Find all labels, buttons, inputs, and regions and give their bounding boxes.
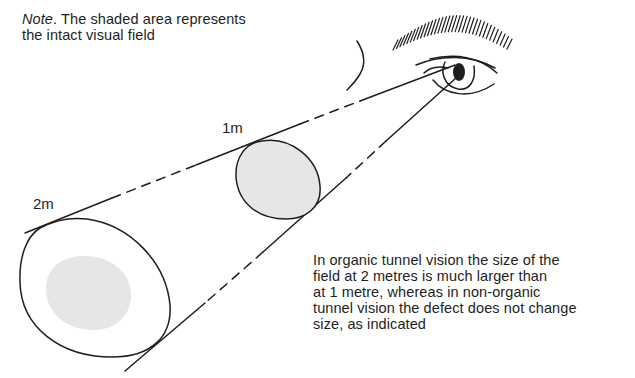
near-field-oval [236,140,320,219]
eyebrow-stroke [497,32,502,44]
eyebrow-stroke [400,36,405,47]
upper-sight-line [25,65,455,233]
note-text: Note. The shaded area representsthe inta… [22,11,246,43]
eyebrow-stroke [500,34,505,45]
distance-label-1m: 1m [222,120,243,136]
distance-label-2m: 2m [33,196,54,212]
nose-contour-icon [347,41,364,90]
eyebrow-stroke [403,33,408,45]
eyebrow-stroke [397,38,402,49]
far-field-shaded-area [46,256,131,330]
eyebrow-stroke [507,39,512,49]
eyebrow-stroke [393,40,398,50]
caption-text: In organic tunnel vision the size of the… [313,252,577,332]
eyebrow-stroke [493,29,498,41]
note-body: . The shaded area representsthe intact v… [22,11,246,43]
eyebrow-stroke [504,37,509,48]
note-lead: Note [22,11,53,27]
eyebrow-icon [393,16,512,50]
eyebrow-stroke [410,29,415,42]
pupil-icon [453,63,465,81]
